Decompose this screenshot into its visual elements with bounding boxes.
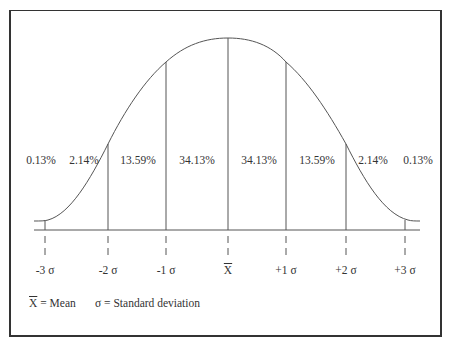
tick-label-mean: X xyxy=(224,264,232,276)
tick-label: -3 σ xyxy=(36,264,55,276)
legend-mean: X = Mean xyxy=(29,297,76,309)
percent-label: 34.13% xyxy=(179,154,214,166)
percent-label: 0.13% xyxy=(403,154,433,166)
percent-label: 2.14% xyxy=(69,154,99,166)
tick-label: +3 σ xyxy=(394,264,415,276)
tick-label: +2 σ xyxy=(335,264,356,276)
percent-label: 2.14% xyxy=(358,154,388,166)
percent-label: 13.59% xyxy=(120,154,155,166)
bell-curve xyxy=(34,38,420,221)
percent-label: 13.59% xyxy=(299,154,334,166)
tick-label: -1 σ xyxy=(157,264,176,276)
percent-label: 34.13% xyxy=(241,154,276,166)
legend-sd: σ = Standard deviation xyxy=(95,297,200,309)
percent-label: 0.13% xyxy=(26,154,56,166)
mean-text: = Mean xyxy=(37,297,75,309)
normal-curve-diagram xyxy=(0,0,451,343)
tick-label: +1 σ xyxy=(275,264,296,276)
tick-label: -2 σ xyxy=(99,264,118,276)
